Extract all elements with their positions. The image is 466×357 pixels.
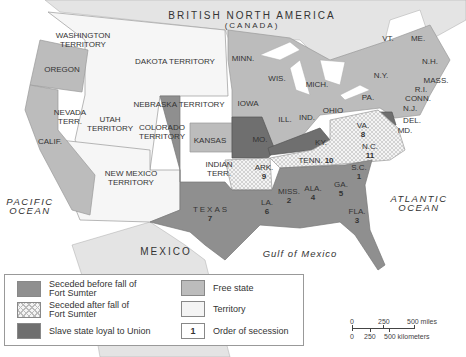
label-nc: N.C.11 (362, 142, 378, 160)
label-pa: PA. (362, 93, 374, 102)
label-washington-territory: WASHINGTONTERRITORY (56, 31, 111, 49)
label-mo: MO. (252, 135, 267, 144)
swatch-seceded-before (17, 281, 41, 297)
legend-order: 1 Order of secession (181, 323, 289, 339)
swatch-loyal (17, 323, 41, 339)
label-utah-territory: UTAHTERRITORY (87, 115, 133, 133)
label-ind: IND. (299, 113, 315, 122)
scale-bar: 0 250 500 miles 0 250 500 kilometers (350, 318, 462, 348)
legend-seceded-before: Seceded before fall ofFort Sumter (17, 280, 137, 298)
label-la: LA.6 (261, 198, 273, 216)
label-ny: N.Y. (374, 71, 389, 80)
label-nebraska-territory: NEBRASKA TERRITORY (133, 100, 224, 109)
label-me: ME. (411, 34, 425, 43)
label-pacific-ocean: PACIFICOCEAN (6, 197, 53, 215)
label-vt: VT. (382, 34, 394, 43)
label-nevada-terr: NEVADATERR. (54, 108, 86, 126)
label-mass: MASS. (424, 76, 449, 85)
label-md: MD. (398, 126, 413, 135)
label-ohio: OHIO (323, 106, 343, 115)
label-sc: S.C.1 (351, 163, 367, 181)
label-calif: CALIF. (38, 137, 62, 146)
label-indian-terr: INDIANTERR. (205, 160, 232, 178)
label-ga: GA.5 (334, 180, 348, 198)
swatch-order: 1 (181, 323, 205, 339)
label-fla: FLA.3 (349, 207, 366, 225)
label-ill: ILL. (278, 115, 291, 124)
label-canada: (CANADA) (225, 21, 280, 30)
label-iowa: IOWA (237, 99, 258, 108)
label-wis: WIS. (268, 74, 285, 83)
label-oregon: OREGON (44, 65, 80, 74)
secession-map: BRITISH NORTH AMERICA (CANADA) MEXICO PA… (0, 0, 466, 357)
label-new-mexico-territory: NEW MEXICOTERRITORY (105, 169, 157, 187)
label-british-north-america: BRITISH NORTH AMERICA (168, 11, 335, 20)
label-nh: N.H. (422, 57, 438, 66)
label-ri: R.I. (415, 85, 427, 94)
label-dakota-territory: DAKOTA TERRITORY (135, 57, 215, 66)
label-va: VA.8 (357, 121, 369, 139)
map-legend: Seceded before fall ofFort Sumter Secede… (4, 274, 304, 346)
legend-free: Free state (181, 280, 254, 296)
label-texas: TEXAS7 (193, 205, 229, 223)
label-ark: ARK.9 (255, 163, 274, 181)
swatch-free (181, 280, 205, 296)
legend-loyal: Slave state loyal to Union (17, 323, 151, 339)
label-minn: MINN. (232, 54, 255, 63)
label-gulf-of-mexico: Gulf of Mexico (263, 249, 338, 258)
swatch-territory (181, 301, 205, 317)
label-mich: MICH. (306, 80, 329, 89)
label-del: DEL. (403, 116, 421, 125)
label-ala: ALA.4 (304, 184, 321, 202)
label-colorado-territory: COLORADOTERRITORY (139, 123, 185, 141)
label-nj: N.J. (403, 104, 417, 113)
legend-territory: Territory (181, 301, 246, 317)
label-miss: MISS.2 (278, 187, 300, 205)
label-ky: KY. (315, 138, 327, 147)
label-mexico: MEXICO (140, 247, 191, 256)
label-kansas: KANSAS (194, 136, 226, 145)
label-atlantic-ocean: ATLANTICOCEAN (390, 194, 447, 212)
legend-seceded-after: Seceded after fall ofFort Sumter (17, 301, 129, 319)
swatch-seceded-after (17, 302, 41, 318)
label-conn: CONN. (405, 94, 431, 103)
label-tenn: TENN. 10 (298, 156, 333, 165)
